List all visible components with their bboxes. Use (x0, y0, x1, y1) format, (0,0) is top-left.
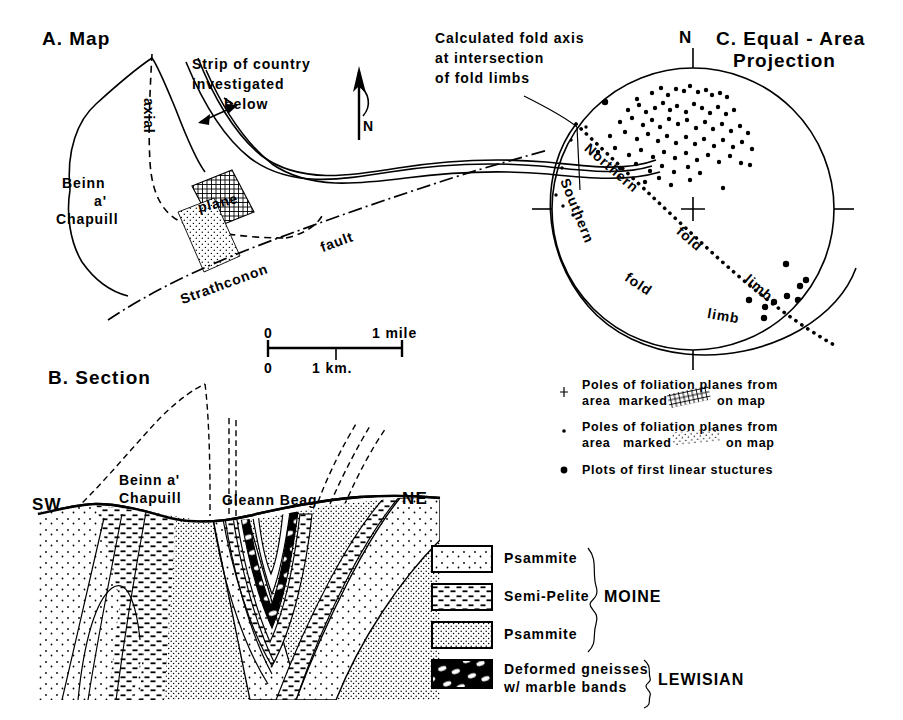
stereonet-point (729, 129, 733, 133)
stereonet-point (653, 106, 657, 110)
stereonet-point (623, 130, 627, 134)
stereonet-point (658, 125, 662, 129)
stereonet-point (716, 105, 720, 109)
stereonet-point (711, 127, 715, 131)
stereonet-point (702, 137, 706, 141)
rock-legend-label-3b: w/ marble bands (504, 679, 627, 696)
stereonet-point (584, 125, 587, 128)
stereonet-point (721, 186, 725, 190)
stereonet-point (706, 153, 710, 157)
strip-label-line2: investigated (192, 76, 285, 93)
stereonet-point (686, 165, 690, 169)
strip-label-line3: below (224, 96, 268, 113)
scale-bar (268, 340, 402, 360)
stereonet-point (650, 118, 654, 122)
stereonet-point (659, 86, 663, 90)
stereonet-point (560, 166, 563, 169)
stereonet-point (692, 102, 696, 106)
stereonet-point (738, 124, 742, 128)
northern-fold-limb-great-circle (576, 124, 836, 346)
stereonet-point (556, 118, 559, 121)
stereonet-point (674, 87, 678, 91)
stereonet-point (688, 178, 692, 182)
swatch-deformed-gneisses (432, 660, 492, 688)
stereonet-point (761, 315, 767, 321)
stereonet-point (725, 95, 729, 99)
stereonet-point (718, 91, 722, 95)
section-peak-line1: Beinn a' (119, 472, 180, 489)
stereonet-point (648, 169, 652, 173)
stereonet-point (694, 126, 698, 130)
rock-legend-group-moine: MOINE (604, 588, 661, 607)
stereonet-point (639, 148, 643, 152)
stereonet-point (662, 150, 666, 154)
stereonet-point (728, 154, 732, 158)
legend-0-line2b: on map (717, 394, 766, 409)
stereonet-point (682, 89, 686, 93)
stereonet-point (698, 171, 702, 175)
stereonet-point (704, 88, 708, 92)
stereonet-point (666, 93, 670, 97)
center-cross (681, 197, 705, 221)
stereonet-point (674, 141, 678, 145)
stereonet-point (703, 120, 707, 124)
stereonet-point (803, 277, 809, 283)
locality-line1: Beinn (62, 175, 105, 192)
stereonet-point (635, 97, 639, 101)
stereonet-point (672, 170, 676, 174)
section-peak-line2: Chapuill (119, 490, 181, 507)
stereonet-point (721, 138, 725, 142)
legend-2-line1: Plots of first linear stuctures (582, 463, 773, 478)
panel-c-title-line2: Projection (733, 50, 836, 72)
stereonet-point (739, 161, 743, 165)
legend-0-line1: Poles of foliation planes from (582, 378, 778, 393)
figure-graphics (0, 0, 903, 720)
stereonet-point (667, 117, 671, 121)
stereonet-point (646, 132, 650, 136)
section-ne-label: NE (402, 489, 428, 509)
callout-line2: at intersection (435, 50, 544, 67)
stereonet-point (717, 160, 721, 164)
panel-c-title-line1: C. Equal - Area (716, 28, 865, 50)
stereonet-point (771, 299, 777, 305)
fold-axis-leader-line (524, 96, 577, 127)
swatch-psammite-lower (432, 622, 492, 648)
stereonet-point (708, 111, 712, 115)
rock-legend-group-lewisian: LEWISIAN (658, 671, 744, 690)
stereonet-point (795, 297, 801, 303)
rock-legend-label-0: Psammite (504, 550, 577, 567)
stereonet-north-label: N (679, 28, 692, 48)
stereonet-point (668, 108, 672, 112)
stereonet-point (656, 139, 660, 143)
panel-b-title: B. Section (48, 367, 151, 389)
stereonet-point (627, 153, 631, 157)
large-dot-marker-icon (561, 467, 568, 474)
stereonet-point (696, 90, 700, 94)
stereonet-point (554, 144, 557, 147)
scale-bottom-mid: 1 km. (312, 360, 352, 377)
stereonet-data-points (546, 84, 819, 321)
swatch-psammite-upper (432, 546, 492, 572)
stereonet-point (568, 93, 571, 96)
stereonet-point (608, 134, 612, 138)
legend-1-line2a: area marked (582, 436, 672, 451)
stereonet-point (657, 176, 661, 180)
stereonet-point (554, 193, 557, 196)
map-north-label: N (363, 118, 374, 135)
stereonet-point (746, 297, 752, 303)
stereonet-point (783, 261, 789, 267)
stereonet-point (613, 146, 617, 150)
stereonet-point (618, 120, 622, 124)
panel-a-title: A. Map (42, 28, 110, 50)
stereonet-point (750, 147, 754, 151)
stereonet-point (675, 104, 679, 108)
rock-legend-label-3a: Deformed gneisses (504, 661, 648, 678)
stereonet-point (650, 91, 654, 95)
stereonet-point (797, 283, 803, 289)
stereonet-point (669, 183, 673, 187)
stereonet-point (578, 116, 581, 119)
locality-line2: a' (94, 193, 107, 210)
stereonet-point (665, 134, 669, 138)
stereonet-point (748, 163, 752, 167)
stereonet-point (634, 162, 638, 166)
